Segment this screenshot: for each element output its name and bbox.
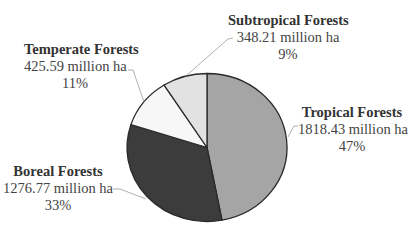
- slice-value: 1818.43 million ha: [298, 121, 406, 138]
- slice-name: Tropical Forests: [298, 104, 406, 121]
- leader-line-temperate: [128, 70, 144, 102]
- pie-slices: [127, 73, 287, 221]
- slice-value: 1276.77 million ha: [2, 180, 114, 197]
- slice-percent: 9%: [228, 46, 348, 63]
- slice-value: 348.21 million ha: [228, 29, 348, 46]
- label-subtropical: Subtropical Forests 348.21 million ha 9%: [228, 12, 348, 63]
- slice-percent: 11%: [24, 75, 126, 92]
- slice-name: Subtropical Forests: [228, 12, 348, 29]
- slice-percent: 33%: [2, 197, 114, 214]
- leader-line-tropical: [288, 126, 298, 137]
- slice-name: Boreal Forests: [2, 163, 114, 180]
- pie-slice-tropical: [207, 73, 287, 220]
- label-tropical: Tropical Forests 1818.43 million ha 47%: [298, 104, 406, 155]
- slice-value: 425.59 million ha: [24, 58, 126, 75]
- label-temperate: Temperate Forests 425.59 million ha 11%: [24, 41, 126, 92]
- label-boreal: Boreal Forests 1276.77 million ha 33%: [2, 163, 114, 214]
- slice-percent: 47%: [298, 138, 406, 155]
- slice-name: Temperate Forests: [24, 41, 126, 58]
- leader-line-subtropical: [187, 38, 233, 75]
